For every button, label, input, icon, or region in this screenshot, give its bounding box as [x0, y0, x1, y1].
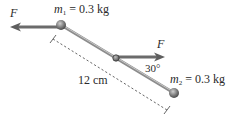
length-label: 12 cm	[78, 74, 108, 86]
mass-2-label: m2 = 0.3 kg	[170, 73, 225, 87]
force-right-label: F	[157, 38, 164, 50]
rod-diagram: F m1 = 0.3 kg F 30° m2 = 0.3 kg 12 cm	[0, 0, 238, 119]
force-left-label: F	[10, 7, 17, 19]
mass-2-symbol: m	[170, 72, 179, 86]
angle-label: 30°	[145, 63, 160, 74]
mass-1-equals: =	[66, 2, 79, 16]
pivot-point	[113, 55, 119, 61]
diagram-graphics	[0, 0, 238, 119]
mass-1-symbol: m	[54, 2, 63, 16]
force-arrow-right	[118, 53, 165, 62]
mass-1-ball	[56, 20, 66, 30]
force-arrow-left	[10, 23, 59, 32]
length-dimension-line	[50, 35, 170, 114]
mass-2-ball	[169, 88, 179, 98]
mass-2-value: 0.3 kg	[195, 72, 225, 86]
mass-2-equals: =	[182, 72, 195, 86]
mass-1-label: m1 = 0.3 kg	[54, 3, 109, 17]
mass-1-value: 0.3 kg	[79, 2, 109, 16]
